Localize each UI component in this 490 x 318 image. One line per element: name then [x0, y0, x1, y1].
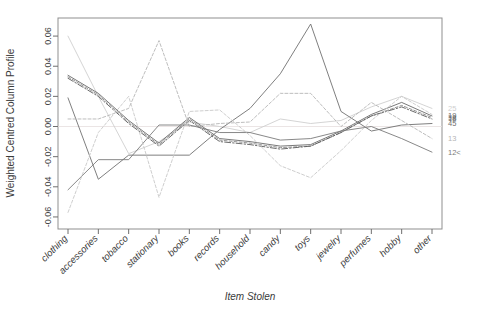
y-tick-label: 0.06 [43, 27, 53, 45]
series-line [68, 78, 432, 149]
legend-label: 12< [448, 148, 461, 157]
x-tick-label: candy [256, 232, 283, 259]
series-line [68, 41, 432, 139]
legend-label: 13 [448, 134, 456, 143]
y-axis-ticks [53, 36, 58, 217]
x-tick-label: perfumes [336, 232, 373, 269]
legend-label: 45 [448, 119, 456, 128]
x-axis-tick-labels: clothingaccessoriestobaccostationarybook… [38, 232, 434, 276]
x-axis-title: Item Stolen [225, 291, 276, 302]
y-tick-label: 0.00 [43, 118, 53, 136]
x-tick-label: hobby [377, 232, 404, 259]
y-tick-label: 0.04 [43, 57, 53, 75]
y-tick-label: -0.04 [43, 177, 53, 198]
data-series-lines [68, 24, 432, 212]
plot-frame [58, 18, 442, 229]
x-tick-label: stationary [124, 232, 162, 270]
legend: 25193818451312< [448, 104, 461, 157]
y-axis-tick-labels: 0.060.040.020.00-0.02-0.04-0.06 [43, 27, 53, 227]
x-tick-label: toys [292, 232, 312, 252]
column-profile-chart: 0.060.040.020.00-0.02-0.04-0.06 clothing… [0, 0, 490, 318]
y-tick-label: -0.02 [43, 146, 53, 167]
series-line [68, 125, 432, 190]
y-tick-label: 0.02 [43, 88, 53, 106]
x-tick-label: other [410, 232, 434, 256]
series-line [68, 36, 432, 154]
y-axis-title: Weighted Centred Column Profile [5, 48, 16, 197]
series-line [68, 24, 432, 179]
chart-root: 0.060.040.020.00-0.02-0.04-0.06 clothing… [0, 0, 490, 318]
x-tick-label: books [165, 232, 191, 258]
y-tick-label: -0.06 [43, 207, 53, 228]
